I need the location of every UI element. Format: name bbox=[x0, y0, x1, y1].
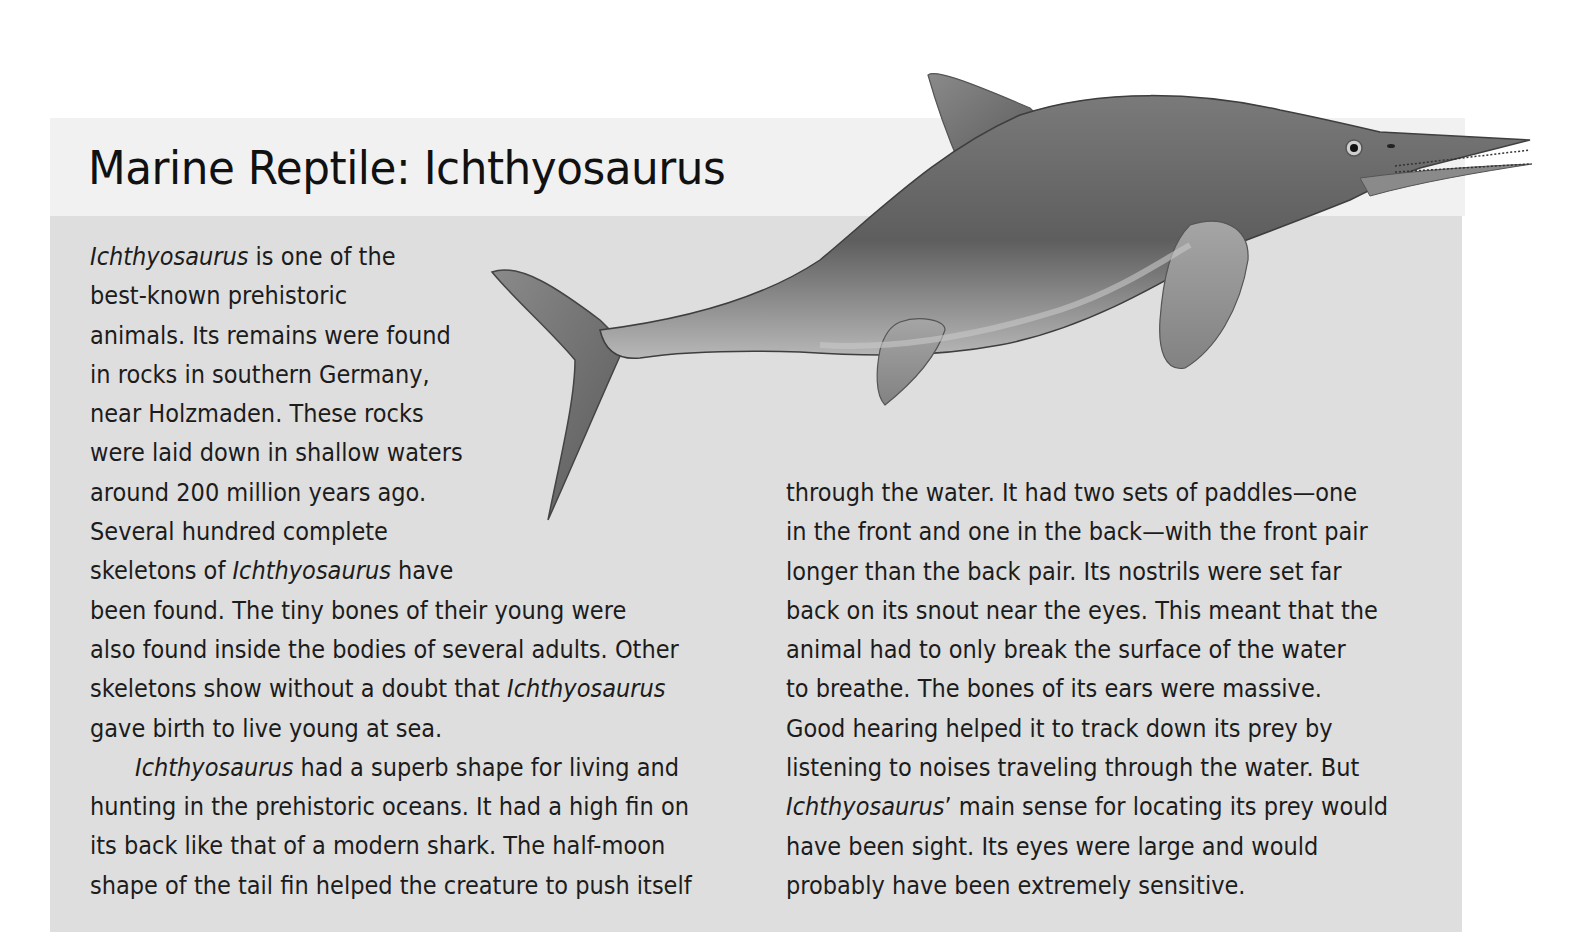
text-run: Good hearing helped it to track down its… bbox=[786, 714, 1333, 743]
text-run: skeletons show without a doubt that bbox=[90, 674, 507, 703]
text-run: skeletons of bbox=[90, 556, 232, 585]
text-line: Ichthyosaurus had a superb shape for liv… bbox=[90, 748, 692, 787]
text-line: listening to noises traveling through th… bbox=[786, 748, 1388, 787]
text-run: to breathe. The bones of its ears were m… bbox=[786, 674, 1322, 703]
right-text-column: through the water. It had two sets of pa… bbox=[786, 473, 1388, 905]
text-line: to breathe. The bones of its ears were m… bbox=[786, 669, 1388, 708]
text-run: around 200 million years ago. bbox=[90, 478, 426, 507]
text-run: animals. Its remains were found bbox=[90, 321, 451, 350]
text-run: shape of the tail fin helped the creatur… bbox=[90, 871, 692, 900]
text-line: back on its snout near the eyes. This me… bbox=[786, 591, 1388, 630]
text-run: back on its snout near the eyes. This me… bbox=[786, 596, 1378, 625]
text-run: also found inside the bodies of several … bbox=[90, 635, 679, 664]
text-line: Good hearing helped it to track down its… bbox=[786, 709, 1388, 748]
ichthyosaurus-illustration bbox=[480, 60, 1550, 530]
text-run: listening to noises traveling through th… bbox=[786, 753, 1359, 782]
text-run: have been sight. Its eyes were large and… bbox=[786, 832, 1318, 861]
text-line: Ichthyosaurus’ main sense for locating i… bbox=[786, 787, 1388, 826]
italic-species-name: Ichthyosaurus bbox=[786, 792, 944, 821]
text-line: been found. The tiny bones of their youn… bbox=[90, 591, 692, 630]
text-run: Several hundred complete bbox=[90, 517, 388, 546]
text-line: its back like that of a modern shark. Th… bbox=[90, 826, 692, 865]
text-run: had a superb shape for living and bbox=[293, 753, 679, 782]
italic-species-name: Ichthyosaurus bbox=[90, 242, 248, 271]
text-line: hunting in the prehistoric oceans. It ha… bbox=[90, 787, 692, 826]
text-run: been found. The tiny bones of their youn… bbox=[90, 596, 626, 625]
text-run: near Holzmaden. These rocks bbox=[90, 399, 424, 428]
text-line: skeletons of Ichthyosaurus have bbox=[90, 551, 692, 590]
text-line: probably have been extremely sensitive. bbox=[786, 866, 1388, 905]
text-run: probably have been extremely sensitive. bbox=[786, 871, 1245, 900]
text-line: animal had to only break the surface of … bbox=[786, 630, 1388, 669]
text-run: have bbox=[391, 556, 453, 585]
text-run: longer than the back pair. Its nostrils … bbox=[786, 557, 1342, 586]
text-run: ’ main sense for locating its prey would bbox=[944, 792, 1388, 821]
text-run: gave birth to live young at sea. bbox=[90, 714, 442, 743]
ichthyosaurus-icon bbox=[480, 60, 1550, 530]
text-line: have been sight. Its eyes were large and… bbox=[786, 827, 1388, 866]
text-run: its back like that of a modern shark. Th… bbox=[90, 831, 665, 860]
text-run: animal had to only break the surface of … bbox=[786, 635, 1346, 664]
text-line: longer than the back pair. Its nostrils … bbox=[786, 552, 1388, 591]
text-run: were laid down in shallow waters bbox=[90, 438, 463, 467]
italic-species-name: Ichthyosaurus bbox=[507, 674, 665, 703]
italic-species-name: Ichthyosaurus bbox=[135, 753, 293, 782]
text-run: best-known prehistoric bbox=[90, 281, 347, 310]
text-run: is one of the bbox=[248, 242, 395, 271]
text-run: in rocks in southern Germany, bbox=[90, 360, 430, 389]
text-line: shape of the tail fin helped the creatur… bbox=[90, 866, 692, 905]
italic-species-name: Ichthyosaurus bbox=[232, 556, 390, 585]
text-line: gave birth to live young at sea. bbox=[90, 709, 692, 748]
article-page: Marine Reptile: Ichthyosaurus Ichthyosau… bbox=[0, 0, 1595, 950]
text-line: skeletons show without a doubt that Icht… bbox=[90, 669, 692, 708]
text-line: also found inside the bodies of several … bbox=[90, 630, 692, 669]
text-run: hunting in the prehistoric oceans. It ha… bbox=[90, 792, 689, 821]
